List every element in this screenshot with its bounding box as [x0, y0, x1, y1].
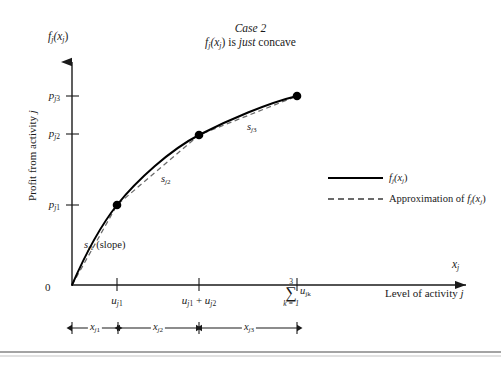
- breakpoint-marker: [195, 131, 204, 140]
- breakpoint-marker: [293, 92, 302, 101]
- figure-title-line1: Case 2: [0, 22, 501, 34]
- y-tick-label-p-j3: pj3: [28, 90, 60, 103]
- summation-sigma: ∑: [283, 286, 299, 301]
- x-axis-title: Level of activity j: [385, 288, 464, 299]
- title-emph: just: [239, 36, 256, 48]
- x-tick-label-u-j1-plus-u-j2: uj1 + uj2: [182, 295, 216, 308]
- y-axis-name: fj(xj): [48, 31, 68, 44]
- legend-label-function: fj(xj): [389, 172, 408, 185]
- figure-canvas: [0, 0, 501, 365]
- legend-label-approximation: Approximation of fj(xj): [389, 193, 486, 206]
- function-curve: [72, 96, 297, 285]
- legend-approx-prefix: Approximation of: [389, 193, 467, 204]
- breakpoint-marker: [113, 201, 122, 210]
- title-arg: (x: [210, 36, 219, 48]
- slope-label-s-j1: sj1 (slope): [84, 240, 125, 252]
- summation-operator: 3 ∑ k = 1: [283, 278, 299, 308]
- figure-title: Case 2 fj(xj) is just concave: [0, 22, 501, 50]
- approximation-polyline: [72, 96, 297, 285]
- title-is: is: [225, 36, 238, 48]
- summation-lower-limit: k = 1: [283, 300, 299, 308]
- slope-label-s-j3: sj3: [247, 122, 257, 134]
- figure-title-line2: fj(xj) is just concave: [0, 36, 501, 50]
- summation-term: ujk: [299, 286, 311, 300]
- y-tick-label-p-j2: pj2: [28, 128, 60, 141]
- slope-label-s-j2: sj2: [161, 174, 171, 186]
- bracket-label-x-j1: xj1: [88, 322, 102, 334]
- origin-label: 0: [45, 282, 51, 293]
- y-tick-label-p-j1: pj1: [28, 199, 60, 212]
- x-tick-label-u-j1: uj1: [111, 295, 122, 308]
- x-axis-name: xj: [452, 259, 459, 272]
- x-tick-label-summation: 3 ∑ k = 1 ujk: [283, 278, 311, 308]
- title-tail: concave: [255, 36, 296, 48]
- figure-root: Case 2 fj(xj) is just concave fj(xj) xj …: [0, 0, 501, 365]
- bracket-label-x-j2: xj2: [151, 322, 165, 334]
- bracket-label-x-j3: xj3: [242, 322, 256, 334]
